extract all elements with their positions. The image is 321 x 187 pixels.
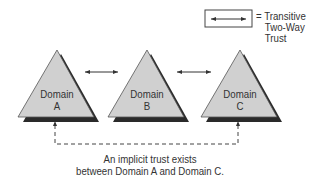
domain-b-label: DomainB (125, 88, 169, 112)
domain-c-label: DomainC (218, 88, 262, 112)
legend-label: = Transitive Two-Way Trust (256, 11, 306, 44)
legend-box (205, 10, 252, 27)
domain-a-label: DomainA (35, 88, 79, 112)
caption: An implicit trust exists between Domain … (71, 153, 229, 177)
implicit-trust-dashed-path (53, 121, 240, 144)
